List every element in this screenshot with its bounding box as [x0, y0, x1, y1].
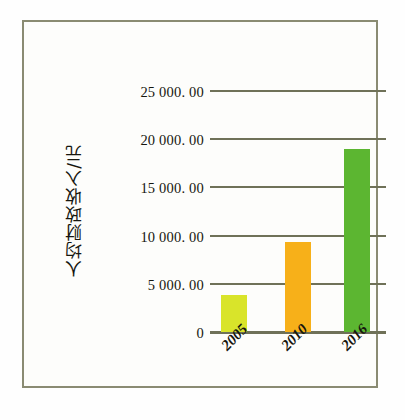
y-tick-label: 10 000. 00 — [140, 228, 204, 245]
y-tick-label: 20 000. 00 — [140, 132, 204, 149]
y-tick-label: 15 000. 00 — [140, 180, 204, 197]
y-tick-label: 0 — [197, 325, 204, 342]
plot-area — [210, 92, 386, 333]
y-axis-tick-labels: 05 000. 0010 000. 0015 000. 0020 000. 00… — [64, 92, 204, 333]
chart-screenshot: 人均财政收入/元 05 000. 0010 000. 0015 000. 002… — [0, 0, 405, 420]
chart-frame: 人均财政收入/元 05 000. 0010 000. 0015 000. 002… — [22, 20, 378, 388]
x-axis-tick-labels: 200520102016 — [210, 336, 390, 396]
gridline — [210, 138, 386, 140]
y-tick-label: 5 000. 00 — [148, 276, 204, 293]
bar-2016 — [344, 149, 370, 332]
y-tick-label: 25 000. 00 — [140, 84, 204, 101]
bar-2010 — [285, 242, 311, 332]
gridline — [210, 90, 386, 92]
